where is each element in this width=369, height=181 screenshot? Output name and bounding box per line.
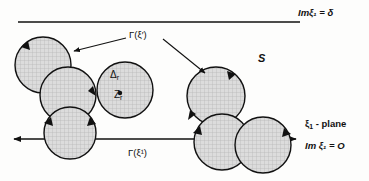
- figure-container: Imξ₁ = δ Γ(ξ′) S Δr Zr ξ1 - plane Im ξ₁ …: [0, 0, 369, 181]
- label-delta-r-subscript: r: [117, 73, 119, 82]
- label-im-xi-delta: Imξ₁ = δ: [298, 8, 333, 18]
- label-delta-r: Δr: [110, 70, 119, 81]
- label-z-r-subscript: r: [120, 93, 122, 102]
- label-xi-plane-suffix: - plane: [316, 118, 347, 129]
- label-im-xi-zero: Im ξ₁ = O: [305, 141, 345, 151]
- gamma-arrow-left: [74, 38, 126, 51]
- gamma-arrow-right: [163, 39, 205, 73]
- label-gamma-xi-prime: Γ(ξ′): [129, 30, 147, 40]
- label-im-xi-zero-text: Im ξ₁ = O: [305, 140, 345, 151]
- label-delta-r-symbol: Δ: [110, 69, 117, 80]
- disk-left-3: [44, 107, 96, 159]
- label-region-s: S: [258, 53, 265, 64]
- label-xi-plane: ξ1 - plane: [305, 119, 346, 131]
- label-gamma-xi-one-text: Γ(ξ¹): [128, 147, 147, 158]
- label-xi-plane-subscript: 1: [309, 123, 313, 130]
- label-im-xi-delta-text: Imξ₁ = δ: [298, 7, 333, 18]
- label-gamma-xi-one: Γ(ξ¹): [128, 148, 147, 158]
- disk-right-3: [235, 117, 291, 173]
- diagram-canvas: [0, 0, 369, 181]
- label-z-r: Zr: [114, 90, 123, 101]
- disk-delta-r: [97, 62, 153, 118]
- label-region-s-text: S: [258, 52, 265, 64]
- label-gamma-xi-prime-text: Γ(ξ′): [129, 29, 147, 40]
